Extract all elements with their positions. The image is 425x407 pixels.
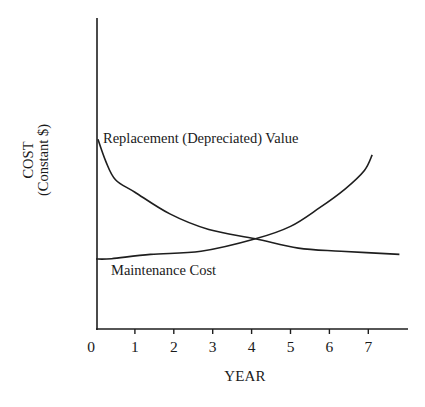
x-tick-label: 4 xyxy=(248,338,256,356)
y-axis-label-line1: COST xyxy=(21,124,36,196)
y-axis-label-line2: (Constant $) xyxy=(36,124,51,196)
replacement-value-label: Replacement (Depreciated) Value xyxy=(103,130,298,147)
x-tick-label: 6 xyxy=(326,338,334,356)
maintenance-cost-curve xyxy=(96,155,372,259)
y-axis-label: COST (Constant $) xyxy=(21,124,51,196)
maintenance-cost-label: Maintenance Cost xyxy=(111,262,216,279)
x-tick-label: 7 xyxy=(364,338,372,356)
x-tick-label: 3 xyxy=(209,338,217,356)
x-axis-label: YEAR xyxy=(224,368,266,385)
x-tick-label: 5 xyxy=(287,338,295,356)
replacement-value-curve xyxy=(98,139,399,254)
x-tick-label: 0 xyxy=(87,338,95,356)
x-tick-label: 1 xyxy=(131,338,139,356)
x-tick-label: 2 xyxy=(170,338,178,356)
